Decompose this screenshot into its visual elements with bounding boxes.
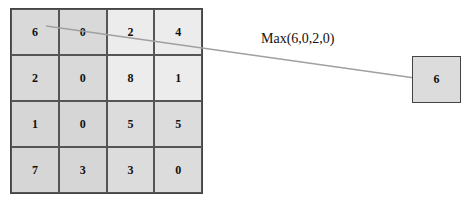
operation-label: Max(6,0,2,0) bbox=[261, 31, 335, 47]
output-cell: 6 bbox=[412, 56, 461, 103]
arrow-icon bbox=[0, 0, 469, 203]
